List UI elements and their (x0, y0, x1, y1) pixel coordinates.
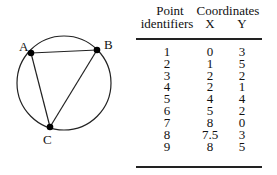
circle-triangle-diagram: A B C (0, 0, 140, 175)
header-coordinates: Coordinates (192, 4, 264, 17)
header-y: Y (227, 17, 257, 30)
header-identifiers: identifiers (136, 17, 198, 30)
point-b-dot (94, 47, 101, 54)
cell-x: 8 (195, 140, 225, 153)
edge-ab (31, 50, 97, 53)
top-rule (136, 38, 262, 40)
edge-bc (50, 50, 97, 127)
cell-y: 5 (227, 140, 257, 153)
header-x: X (195, 17, 225, 30)
cell-id: 9 (152, 140, 182, 153)
point-c-dot (47, 124, 54, 131)
edge-ca (31, 53, 50, 127)
coordinates-table: Point identifiers Coordinates X Y 1 0 3 … (136, 0, 264, 175)
point-b-label: B (104, 38, 113, 51)
diagram-svg (0, 0, 140, 175)
point-c-label: C (43, 133, 52, 146)
point-a-dot (28, 50, 35, 57)
point-a-label: A (19, 40, 28, 53)
bottom-rule (136, 166, 262, 168)
